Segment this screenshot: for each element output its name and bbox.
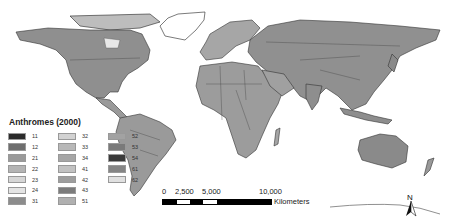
legend-item-41: 41 [58, 163, 106, 174]
legend-swatch [58, 154, 76, 162]
legend-label: 33 [82, 144, 88, 150]
svg-text:N: N [407, 193, 413, 202]
scale-tick-labels: 0 2,500 5,000 10,000 [162, 187, 332, 197]
north-arrow-icon: N [403, 193, 419, 217]
legend-label: 52 [132, 133, 138, 139]
legend-swatch [8, 187, 26, 195]
legend-item-12: 12 [8, 142, 56, 153]
legend-swatch [8, 154, 26, 162]
legend-swatch [58, 133, 76, 141]
north-america [16, 28, 150, 98]
legend-label: 34 [82, 155, 88, 161]
legend-label: 23 [32, 177, 38, 183]
antarctica-edge [330, 204, 440, 214]
legend-swatch [58, 176, 76, 184]
legend-item-53: 53 [108, 142, 156, 153]
legend-item-11: 11 [8, 131, 56, 142]
legend-swatch [108, 176, 126, 184]
legend-item-23: 23 [8, 174, 56, 185]
greenland [160, 12, 205, 40]
legend-item-24: 24 [8, 185, 56, 196]
scale-tick-5000: 5,000 [202, 187, 221, 196]
legend-swatch [8, 143, 26, 151]
legend-swatch [58, 197, 76, 205]
legend-label: 32 [82, 133, 88, 139]
scale-bar-graphic [162, 199, 272, 205]
legend-label: 42 [82, 177, 88, 183]
scale-tick-10000: 10,000 [259, 187, 282, 196]
legend-label: 12 [32, 144, 38, 150]
legend-item-31: 31 [8, 196, 56, 207]
legend-item-54: 54 [108, 153, 156, 164]
canadian-arctic-islands [70, 14, 160, 30]
legend-grid: 11122122232431323334414243515253546162 [8, 131, 158, 207]
indonesia [340, 108, 392, 124]
legend-label: 61 [132, 166, 138, 172]
legend-label: 31 [32, 198, 38, 204]
legend-item-43: 43 [58, 185, 106, 196]
legend-item-62: 62 [108, 174, 156, 185]
legend-label: 43 [82, 187, 88, 193]
legend-swatch [8, 133, 26, 141]
legend-swatch [108, 133, 126, 141]
legend-swatch [108, 143, 126, 151]
legend-label: 11 [32, 133, 38, 139]
legend-label: 41 [82, 166, 88, 172]
australia [358, 134, 408, 168]
legend-title: Anthromes (2000) [9, 117, 158, 127]
legend-label: 53 [132, 144, 138, 150]
scale-tick-0: 0 [162, 187, 166, 196]
legend-swatch [8, 165, 26, 173]
legend-item-51: 51 [58, 196, 106, 207]
legend-item-34: 34 [58, 153, 106, 164]
legend-swatch [58, 143, 76, 151]
legend-swatch [58, 187, 76, 195]
legend-item-33: 33 [58, 142, 106, 153]
scale-tick-2500: 2,500 [175, 187, 194, 196]
legend-label: 24 [32, 187, 38, 193]
legend-swatch [8, 197, 26, 205]
legend-label: 54 [132, 155, 138, 161]
legend-label: 21 [32, 155, 38, 161]
legend-item-21: 21 [8, 153, 56, 164]
legend-swatch [8, 176, 26, 184]
legend-swatch [108, 165, 126, 173]
legend-item-22: 22 [8, 163, 56, 174]
hudson-bay [104, 38, 120, 48]
madagascar [274, 128, 280, 146]
scale-bar: 0 2,500 5,000 10,000 Kilometers [162, 187, 332, 206]
legend-label: 62 [132, 177, 138, 183]
legend-item-61: 61 [108, 163, 156, 174]
legend-item-42: 42 [58, 174, 106, 185]
new-zealand [424, 158, 434, 176]
legend-swatch [58, 165, 76, 173]
legend-item-52: 52 [108, 131, 156, 142]
map-legend: Anthromes (2000) 11122122232431323334414… [8, 117, 158, 207]
legend-swatch [108, 154, 126, 162]
scale-unit-label: Kilometers [274, 197, 309, 206]
india [306, 84, 322, 110]
legend-label: 51 [82, 198, 88, 204]
legend-item-32: 32 [58, 131, 106, 142]
legend-label: 22 [32, 166, 38, 172]
